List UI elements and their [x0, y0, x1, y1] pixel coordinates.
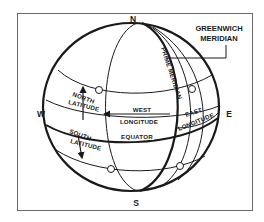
prime-meridian-label: PRIME MERIDIAN: [160, 46, 184, 101]
globe-diagram: N S W E GREENWICH MERIDIAN PRIME MERIDIA…: [0, 0, 264, 222]
intersection-marker: [108, 166, 115, 173]
intersection-marker: [177, 163, 184, 170]
globe-outline: [43, 23, 219, 191]
intersection-marker: [96, 87, 103, 94]
north-label: N: [130, 14, 136, 24]
greenwich-label-line2: MERIDIAN: [200, 34, 238, 43]
south-label: S: [133, 198, 139, 208]
equator-label: EQUATOR: [121, 133, 153, 140]
west-longitude-label-1: WEST: [133, 106, 152, 113]
west-label: W: [37, 109, 46, 119]
east-label: E: [226, 109, 232, 119]
intersection-marker: [189, 86, 196, 93]
west-longitude-label-2: LONGITUDE: [120, 118, 158, 125]
meridian-east-1: [148, 25, 191, 187]
greenwich-label-line1: GREENWICH: [195, 24, 242, 33]
